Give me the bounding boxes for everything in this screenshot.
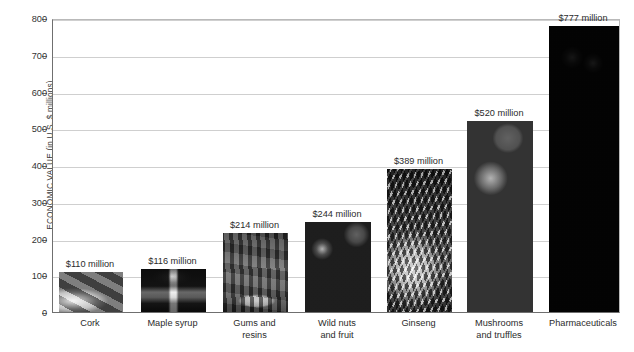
y-tick-label: 800 bbox=[3, 14, 47, 24]
y-axis-ticks: 0100200300400500600700800 bbox=[0, 19, 47, 313]
bar-chart: ECONOMIC VALUE (in U.S. $ millions) 0100… bbox=[0, 0, 634, 352]
bar-value-label: $777 million bbox=[534, 13, 632, 23]
y-tick-label: 100 bbox=[3, 271, 47, 281]
bar-value-label: $116 million bbox=[126, 256, 219, 266]
category-label: Pharmaceuticals bbox=[530, 318, 634, 330]
plot-area bbox=[52, 19, 620, 313]
gridline-300 bbox=[53, 204, 619, 205]
bar-maple-syrup bbox=[141, 269, 206, 312]
y-tick-label: 400 bbox=[3, 161, 47, 171]
bar-wild-nuts-fruit bbox=[305, 222, 371, 312]
photo-pharmaceuticals-image bbox=[549, 26, 619, 312]
y-tick-label: 500 bbox=[3, 124, 47, 134]
bar-value-label: $214 million bbox=[208, 220, 301, 230]
photo-wild-nuts-fruit-image bbox=[305, 222, 371, 312]
bar-gums-resins bbox=[223, 233, 288, 312]
bar-mushrooms-truffles bbox=[467, 121, 533, 312]
y-tick-label: 700 bbox=[3, 51, 47, 61]
bar-value-label: $110 million bbox=[44, 259, 136, 269]
y-tick-label: 0 bbox=[3, 308, 47, 318]
y-tick-label: 200 bbox=[3, 235, 47, 245]
gridline-400 bbox=[53, 167, 619, 168]
y-tick-label: 600 bbox=[3, 88, 47, 98]
y-tick-label: 300 bbox=[3, 198, 47, 208]
category-label-line: Pharmaceuticals bbox=[530, 318, 634, 330]
category-label-line: and truffles bbox=[448, 330, 550, 342]
photo-maple-syrup-image bbox=[141, 269, 206, 312]
gridline-500 bbox=[53, 130, 619, 131]
bar-value-label: $520 million bbox=[452, 108, 546, 118]
category-label-line: and fruit bbox=[286, 330, 388, 342]
bar-value-label: $244 million bbox=[290, 209, 384, 219]
bar-value-label: $389 million bbox=[372, 156, 465, 166]
photo-ginseng-image bbox=[387, 169, 452, 312]
photo-mushrooms-truffles-image bbox=[467, 121, 533, 312]
bar-cork bbox=[59, 272, 123, 312]
bar-pharmaceuticals bbox=[549, 26, 619, 312]
photo-gums-resins-image bbox=[223, 233, 288, 312]
photo-cork-image bbox=[59, 272, 123, 312]
gridline-700 bbox=[53, 57, 619, 58]
bar-ginseng bbox=[387, 169, 452, 312]
gridline-600 bbox=[53, 94, 619, 95]
